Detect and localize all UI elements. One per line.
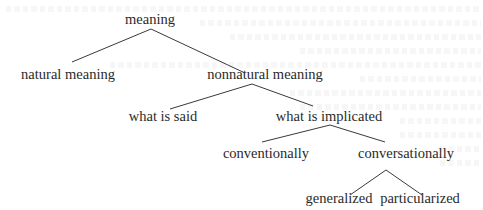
node-particularized: particularized (380, 191, 460, 206)
node-conventionally: conventionally (223, 146, 309, 161)
node-conversationally: conversationally (358, 146, 454, 161)
node-meaning: meaning (125, 12, 175, 27)
edge-meaning-natural (72, 29, 151, 62)
tree-edges (0, 0, 483, 210)
edge-implicated-conventional (262, 125, 330, 142)
edge-implicated-conversational (330, 125, 385, 142)
node-what-is-said: what is said (129, 109, 197, 124)
node-what-is-implicated: what is implicated (276, 109, 382, 124)
node-nonnatural-meaning: nonnatural meaning (207, 67, 323, 82)
edge-nonnatural-said (170, 84, 252, 109)
node-natural-meaning: natural meaning (21, 67, 115, 82)
node-generalized: generalized (306, 191, 373, 206)
edge-nonnatural-implicated (252, 84, 313, 106)
